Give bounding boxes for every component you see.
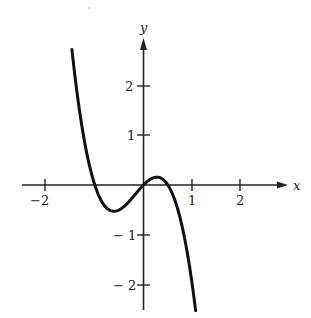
y-axis-label: y: [139, 20, 148, 35]
x-tick-label-1: 1: [188, 193, 196, 208]
function-graph: −2 1 2 x 2 1 − 1 − 2 y: [0, 0, 311, 318]
y-tick-label-neg2: − 2: [113, 278, 136, 293]
x-axis-arrow-icon: [277, 182, 288, 189]
x-axis: −2 1 2 x: [22, 178, 301, 208]
y-axis-arrow-icon: [140, 38, 147, 50]
x-tick-label-neg2: −2: [30, 193, 49, 208]
y-tick-label-neg1: − 1: [113, 228, 136, 243]
x-tick-label-2: 2: [236, 193, 244, 208]
y-tick-label-2: 2: [125, 79, 133, 94]
x-axis-label: x: [293, 178, 301, 193]
y-tick-label-1: 1: [127, 128, 135, 143]
speck-dot: [88, 7, 89, 8]
function-curve: [72, 50, 196, 311]
y-axis: 2 1 − 1 − 2 y: [113, 20, 150, 310]
